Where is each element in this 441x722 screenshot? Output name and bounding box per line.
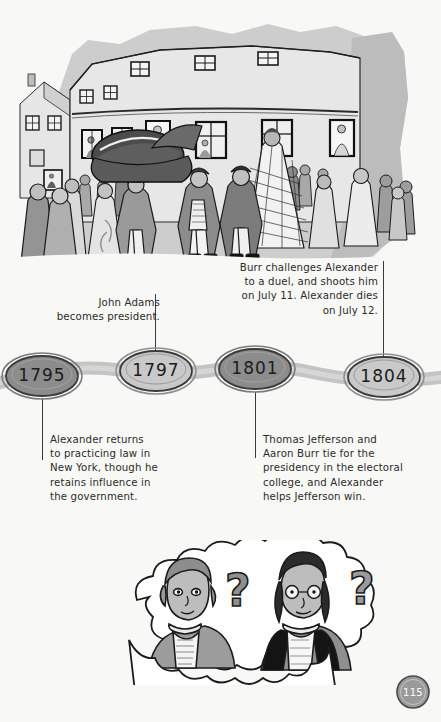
page-number: 115 [395, 674, 431, 710]
question-mark-icon: ? [225, 565, 251, 616]
timeline-year-1797: 1797 [132, 360, 179, 380]
book-page: John Adams becomes president. Burr chall… [0, 0, 441, 722]
timeline: John Adams becomes president. Burr chall… [0, 258, 441, 558]
thought-cloud-illustration: ? [95, 540, 415, 685]
timeline-year-1801: 1801 [231, 358, 278, 378]
page-number-badge: 115 [395, 674, 431, 710]
street-crowd-illustration [0, 8, 441, 266]
timeline-year-1795: 1795 [18, 365, 65, 385]
question-mark-icon: ? [349, 563, 375, 614]
timeline-year-1804: 1804 [360, 366, 407, 386]
